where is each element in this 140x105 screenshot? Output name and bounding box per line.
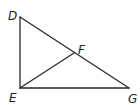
segment-ef [20, 53, 74, 88]
triangle-diagram: D E F G [0, 0, 140, 105]
label-d: D [8, 9, 17, 23]
label-f: F [78, 43, 86, 57]
label-e: E [9, 91, 17, 105]
label-g: G [128, 92, 137, 105]
